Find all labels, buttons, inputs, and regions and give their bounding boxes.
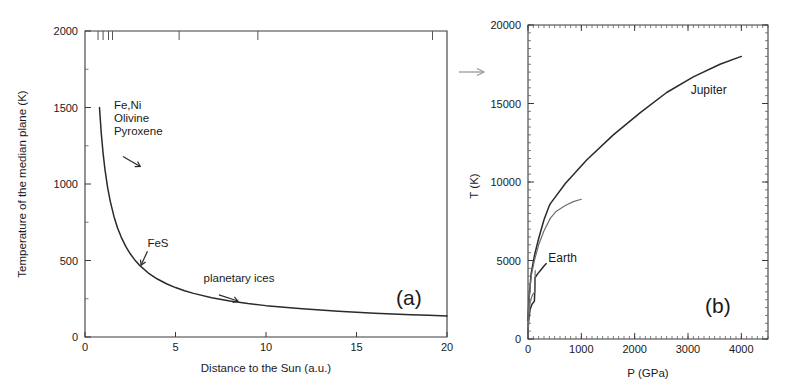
x-tick-label: 10 xyxy=(260,341,272,353)
figure-container: 05101520 0500100015002000 Distance to th… xyxy=(0,0,808,388)
x-tick-label: 0 xyxy=(525,343,531,355)
y-tick-label: 10000 xyxy=(490,176,521,188)
y-tick-label: 2000 xyxy=(54,25,78,37)
annotation-pyroxene-line3: Pyroxene xyxy=(114,125,163,137)
y-tick-label: 15000 xyxy=(490,98,521,110)
x-tick-label: 0 xyxy=(82,341,88,353)
annotation-fes: FeS xyxy=(147,237,168,249)
x-tick-label: 4000 xyxy=(729,343,753,355)
annotation-olivine-line2: Olivine xyxy=(114,112,149,124)
panel-a-x-axis-title: Distance to the Sun (a.u.) xyxy=(201,362,332,374)
y-tick-label: 0 xyxy=(515,333,521,345)
y-tick-label: 1500 xyxy=(54,102,78,114)
panel-b-y-axis-title: T (K) xyxy=(468,173,480,199)
y-tick-label: 0 xyxy=(72,331,78,343)
annotation-fe-ni-line1: Fe,Ni xyxy=(114,99,141,111)
x-tick-label: 1000 xyxy=(569,343,593,355)
panel-b-label: (b) xyxy=(705,294,731,317)
two-panel-figure: 05101520 0500100015002000 Distance to th… xyxy=(0,0,808,388)
panel-a-y-axis-title: Temperature of the median plane (K) xyxy=(16,90,28,277)
y-tick-label: 5000 xyxy=(497,255,521,267)
series-label-jupiter: Jupiter xyxy=(691,83,727,97)
series-label-earth: Earth xyxy=(548,251,577,265)
y-tick-label: 500 xyxy=(60,255,78,267)
annotation-planetary-ices: planetary ices xyxy=(204,272,275,284)
x-tick-label: 2000 xyxy=(622,343,646,355)
panel-b-x-axis-title: P (GPa) xyxy=(627,367,668,379)
y-tick-label: 20000 xyxy=(490,19,521,31)
figure-background xyxy=(0,0,808,388)
y-tick-label: 1000 xyxy=(54,178,78,190)
x-tick-label: 20 xyxy=(441,341,453,353)
x-tick-label: 5 xyxy=(172,341,178,353)
x-tick-label: 15 xyxy=(350,341,362,353)
panel-a-label: (a) xyxy=(396,286,422,309)
x-tick-label: 3000 xyxy=(676,343,700,355)
